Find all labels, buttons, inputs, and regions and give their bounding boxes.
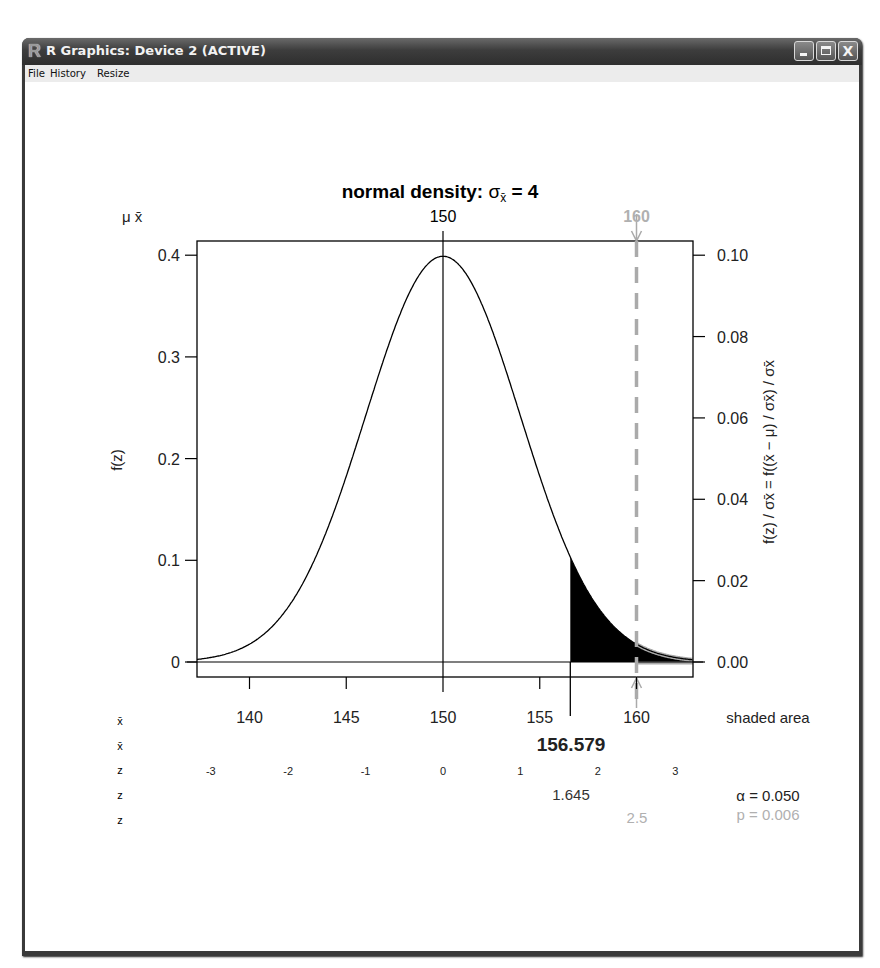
right-axis-tick-label: 0.06 xyxy=(717,410,748,427)
left-axis-tick-label: 0.3 xyxy=(158,349,180,366)
z-axis-tick-label: 0 xyxy=(440,765,446,777)
top-axis-tick-label: 160 xyxy=(623,208,650,225)
right-axis-tick-label: 0.00 xyxy=(717,654,748,671)
right-axis-tick-label: 0.08 xyxy=(717,329,748,346)
x-axis-tick-label: 140 xyxy=(236,709,263,726)
x-axis-tick-label: 155 xyxy=(526,709,553,726)
x-axis-tick-label: 150 xyxy=(430,709,457,726)
top-axis-label: μ x̄ xyxy=(122,208,143,225)
critical-xbar-value: 156.579 xyxy=(537,734,606,755)
row-label-xbar: x̄ xyxy=(117,715,123,727)
alpha-region xyxy=(570,557,693,662)
left-axis-tick-label: 0.4 xyxy=(158,247,180,264)
z-axis-tick-label: -3 xyxy=(206,765,216,777)
p-value-label: p = 0.006 xyxy=(737,806,800,823)
density-curve-path xyxy=(197,256,692,659)
row-label-z: z xyxy=(117,764,123,776)
z-axis-tick-label: 2 xyxy=(595,765,601,777)
left-axis-tick-label: 0.1 xyxy=(158,552,180,569)
row-labels: x̄ x̄ z z z xyxy=(117,715,123,826)
z-axis-tick-label: 1 xyxy=(517,765,523,777)
left-axis-tick-label: 0 xyxy=(171,654,180,671)
z-axis-ticks: -3-2-10123 xyxy=(206,765,678,777)
plot-frame xyxy=(197,241,693,677)
row-label-xbar: x̄ xyxy=(117,740,123,752)
right-axis-tick-label: 0.10 xyxy=(717,247,748,264)
density-curve xyxy=(197,256,692,659)
z-axis-tick-label: 3 xyxy=(672,765,678,777)
x-axis-tick-label: 145 xyxy=(333,709,360,726)
top-axis-tick-label: 150 xyxy=(430,208,457,225)
shaded-area xyxy=(570,557,693,663)
z-axis-tick-label: -1 xyxy=(361,765,371,777)
critical-z-value: 1.645 xyxy=(552,786,590,803)
row-label-z: z xyxy=(117,789,123,801)
normal-density-plot: normal density: σx̄ = 4 μ x̄ 15016000.10… xyxy=(0,0,880,968)
plot-title: normal density: σx̄ = 4 xyxy=(342,181,539,205)
axes: 15016000.10.20.30.40.000.020.040.060.080… xyxy=(158,208,748,716)
observed-z-value: 2.5 xyxy=(627,809,648,826)
left-y-label: f(z) xyxy=(108,449,125,471)
right-axis-tick-label: 0.04 xyxy=(717,491,748,508)
left-axis-tick-label: 0.2 xyxy=(158,451,180,468)
right-axis-tick-label: 0.02 xyxy=(717,573,748,590)
right-y-label: f(z) / σx̄ = f((x̄ − μ) / σx̄) / σx̄ xyxy=(760,360,777,544)
alpha-label: α = 0.050 xyxy=(736,787,799,804)
z-axis-tick-label: -2 xyxy=(283,765,293,777)
x-axis-tick-label: 160 xyxy=(623,709,650,726)
row-label-z: z xyxy=(117,814,123,826)
shaded-area-label: shaded area xyxy=(726,709,810,726)
